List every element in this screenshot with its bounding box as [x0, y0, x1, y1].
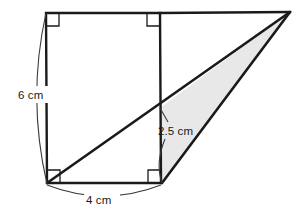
- top-edge-to-apex: [160, 12, 290, 13]
- geometry-figure: 6 cm 4 cm 2.5 cm: [0, 0, 306, 217]
- height-label: 6 cm: [18, 89, 43, 101]
- geometry-canvas: 6 cm 4 cm 2.5 cm: [0, 0, 306, 217]
- base-label: 4 cm: [86, 194, 111, 206]
- triangle-height-label: 2.5 cm: [158, 125, 193, 137]
